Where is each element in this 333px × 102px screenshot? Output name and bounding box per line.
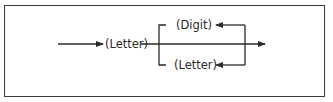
syntax-diagram: (Letter) (Digit) (Letter) [0,0,333,102]
node-loop-letter: (Letter) [174,58,217,72]
node-loop-digit: (Digit) [176,18,212,32]
branch-bracket [159,25,166,65]
